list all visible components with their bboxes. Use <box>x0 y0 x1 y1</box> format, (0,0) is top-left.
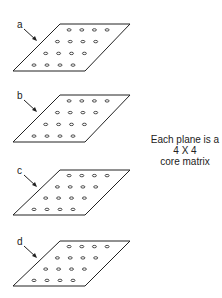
core-icon <box>94 40 98 42</box>
core-icon <box>67 29 71 31</box>
core-icon <box>68 111 72 113</box>
plane-label: b <box>17 90 23 101</box>
core-icon <box>92 245 96 247</box>
core-icon <box>68 257 72 259</box>
core-icon <box>71 135 75 137</box>
core-icon <box>71 279 75 281</box>
core-icon <box>67 100 71 102</box>
caption-line-3: core matrix <box>148 156 222 167</box>
core-icon <box>58 208 62 210</box>
core-icon <box>45 64 49 66</box>
core-icon <box>92 174 96 176</box>
core-icon <box>67 245 71 247</box>
core-icon <box>55 111 59 113</box>
core-icon <box>94 186 98 188</box>
core-icon <box>55 40 59 42</box>
caption-line-2: 4 X 4 <box>148 145 222 156</box>
core-icon <box>68 40 72 42</box>
caption-line-1: Each plane is a <box>148 134 222 145</box>
plane-a: a <box>13 19 130 71</box>
plane-c: c <box>13 165 130 215</box>
core-icon <box>55 186 59 188</box>
plane-b: b <box>13 90 130 142</box>
core-icon <box>57 268 61 270</box>
core-icon <box>81 257 85 259</box>
core-icon <box>55 257 59 259</box>
core-icon <box>81 40 85 42</box>
core-icon <box>32 208 36 210</box>
core-icon <box>82 52 86 54</box>
core-icon <box>82 123 86 125</box>
core-icon <box>105 245 109 247</box>
core-icon <box>82 197 86 199</box>
core-icon <box>32 135 36 137</box>
core-icon <box>70 268 74 270</box>
core-icon <box>70 123 74 125</box>
core-icon <box>45 208 49 210</box>
core-icon <box>80 245 84 247</box>
core-icon <box>105 29 109 31</box>
core-icon <box>71 208 75 210</box>
core-icon <box>57 123 61 125</box>
core-icon <box>58 279 62 281</box>
core-icon <box>71 64 75 66</box>
core-icon <box>44 123 48 125</box>
core-icon <box>70 197 74 199</box>
core-icon <box>45 135 49 137</box>
core-icon <box>94 111 98 113</box>
core-icon <box>80 29 84 31</box>
core-icon <box>82 268 86 270</box>
core-icon <box>44 268 48 270</box>
plane-label: d <box>17 236 23 247</box>
core-icon <box>44 197 48 199</box>
core-icon <box>57 197 61 199</box>
core-icon <box>32 279 36 281</box>
core-icon <box>57 52 61 54</box>
core-icon <box>92 29 96 31</box>
plane-label: c <box>17 165 22 176</box>
plane-d: d <box>13 236 130 286</box>
core-icon <box>68 186 72 188</box>
core-icon <box>67 174 71 176</box>
core-icon <box>81 111 85 113</box>
core-icon <box>80 100 84 102</box>
caption: Each plane is a 4 X 4 core matrix <box>148 134 222 167</box>
core-icon <box>81 186 85 188</box>
core-icon <box>32 64 36 66</box>
core-icon <box>70 52 74 54</box>
plane-label: a <box>17 19 23 30</box>
core-icon <box>92 100 96 102</box>
core-icon <box>44 52 48 54</box>
core-icon <box>58 64 62 66</box>
core-icon <box>105 100 109 102</box>
core-icon <box>45 279 49 281</box>
core-icon <box>94 257 98 259</box>
core-icon <box>105 174 109 176</box>
core-icon <box>58 135 62 137</box>
core-icon <box>80 174 84 176</box>
